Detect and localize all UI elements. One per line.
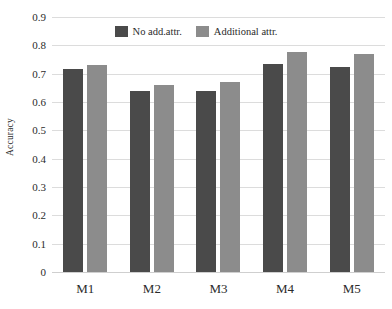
x-axis-category-label: M1 <box>52 281 119 297</box>
y-axis-tick-label: 0.9 <box>32 12 46 23</box>
bar-group: M2 <box>119 17 186 272</box>
bar <box>63 69 83 272</box>
bar-chart: Accuracy No add.attr. Additional attr. 0… <box>0 0 392 309</box>
bar-group: M4 <box>252 17 319 272</box>
y-axis-tick-label: 0.4 <box>32 153 46 164</box>
bar <box>330 67 350 272</box>
bar-group: M3 <box>185 17 252 272</box>
y-axis-tick-label: 0.8 <box>32 40 46 51</box>
y-axis-tick-label: 0.7 <box>32 68 46 79</box>
x-axis-category-label: M5 <box>318 281 385 297</box>
x-axis-category-label: M2 <box>119 281 186 297</box>
y-axis-tick-label: 0.2 <box>32 210 46 221</box>
bar <box>130 91 150 272</box>
x-axis-category-label: M4 <box>252 281 319 297</box>
bar <box>220 82 240 272</box>
bar <box>263 64 283 272</box>
gridline: 0 <box>52 272 385 273</box>
y-axis-title: Accuracy <box>5 97 15 177</box>
bar <box>354 54 374 272</box>
y-axis-tick-label: 0.1 <box>32 238 46 249</box>
bar <box>87 65 107 272</box>
bar-groups: M1M2M3M4M5 <box>52 17 385 272</box>
bar-group: M1 <box>52 17 119 272</box>
plot-area: 0.90.80.70.60.50.40.30.20.10 M1M2M3M4M5 <box>52 17 385 272</box>
x-axis-category-label: M3 <box>185 281 252 297</box>
bar-group: M5 <box>318 17 385 272</box>
y-axis-tick-label: 0.3 <box>32 182 46 193</box>
bar <box>287 52 307 272</box>
bar <box>196 91 216 272</box>
y-axis-tick-label: 0 <box>41 267 47 278</box>
bar <box>154 85 174 272</box>
y-axis-tick-label: 0.5 <box>32 125 46 136</box>
y-axis-tick-label: 0.6 <box>32 97 46 108</box>
